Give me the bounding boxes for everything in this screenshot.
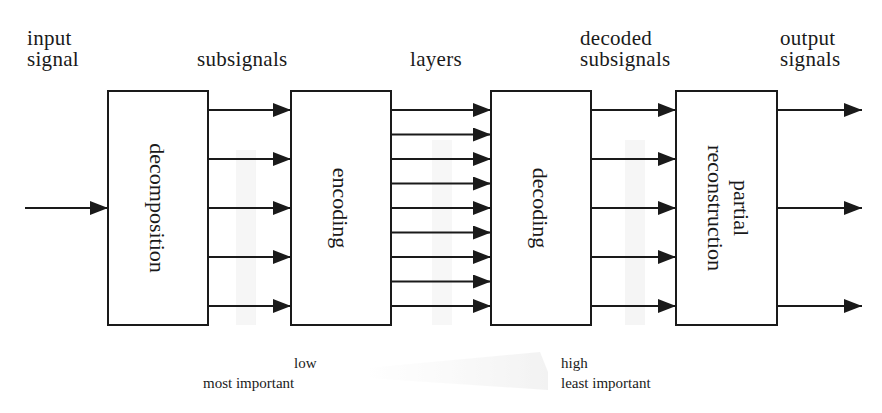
block-partial-reconstruction: partial reconstruction — [676, 91, 777, 325]
block-decoding-label: decoding — [528, 168, 553, 249]
block-encoding-label: encoding — [328, 168, 353, 249]
block-reconstruction-label-2: reconstruction — [703, 145, 728, 271]
block-decomposition-label: decomposition — [145, 143, 170, 273]
output-arrows — [777, 110, 862, 306]
block-decoding: decoding — [491, 91, 591, 325]
legend-least-important: least important — [561, 375, 651, 392]
block-reconstruction-label-1: partial — [729, 180, 754, 236]
legend-low: low — [294, 355, 317, 372]
block-decomposition: decomposition — [108, 91, 208, 325]
legend-high: high — [561, 355, 588, 372]
block-encoding: encoding — [291, 91, 391, 325]
legend-most-important: most important — [203, 375, 294, 392]
diagram-canvas: decomposition encoding decoding partial … — [0, 0, 882, 413]
